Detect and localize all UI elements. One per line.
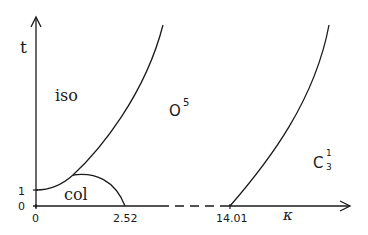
svg-text:1: 1	[326, 148, 332, 158]
svg-text:3: 3	[326, 162, 332, 172]
y-tick-label-1: 1	[18, 185, 25, 198]
region-label-col: col	[64, 185, 88, 204]
y-axis	[31, 17, 41, 208]
svg-text:C: C	[313, 154, 323, 172]
x-tick-label-14-01: 14.01	[216, 212, 248, 225]
region-label-o5: O 5	[169, 97, 189, 120]
x-axis-label: κ	[282, 206, 293, 224]
phase-diagram: t κ 1 0 0 2.52 14.01 iso col O 5 C 1 3	[0, 0, 368, 235]
o5-c31-boundary	[230, 25, 329, 206]
svg-text:5: 5	[183, 97, 189, 108]
y-axis-label: t	[20, 37, 27, 57]
svg-text:O: O	[169, 102, 181, 120]
x-tick-label-0: 0	[32, 212, 39, 225]
region-label-c31: C 1 3	[313, 148, 332, 172]
y-tick-label-0: 0	[18, 200, 25, 213]
region-label-iso: iso	[55, 86, 78, 105]
x-tick-label-2-52: 2.52	[113, 212, 138, 225]
iso-o5-boundary	[36, 25, 163, 190]
